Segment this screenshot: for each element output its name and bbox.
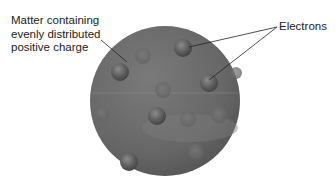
electron bbox=[230, 67, 242, 79]
electron bbox=[148, 107, 166, 125]
electron bbox=[211, 107, 227, 123]
electron bbox=[180, 111, 196, 127]
matter-label-line-3: positive charge bbox=[11, 41, 131, 55]
electron bbox=[95, 107, 109, 121]
matter-label: Matter containing evenly distributed pos… bbox=[11, 14, 131, 55]
electron bbox=[200, 74, 218, 92]
electron bbox=[188, 144, 204, 160]
electron bbox=[120, 153, 138, 171]
matter-label-line-2: evenly distributed bbox=[11, 28, 131, 42]
electron bbox=[135, 48, 151, 64]
electron bbox=[155, 82, 171, 98]
electron bbox=[111, 63, 129, 81]
electrons-label: Electrons bbox=[279, 20, 327, 34]
matter-label-line-1: Matter containing bbox=[11, 14, 131, 28]
electron bbox=[174, 39, 192, 57]
